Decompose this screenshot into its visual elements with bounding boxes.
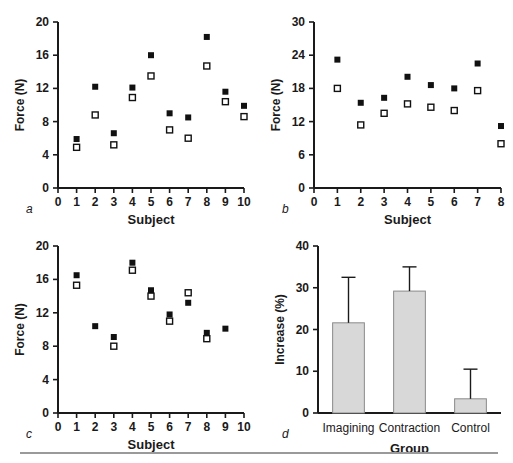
data-point-open-square [204,336,210,342]
y-axis-title: Force (N) [13,303,27,356]
y-axis-title: Force (N) [269,79,283,132]
bar-group: Contraction [379,267,440,435]
category-label: Control [451,421,490,435]
y-tick-label: 8 [42,339,49,353]
panel-b-plot: 0612182430012345678Force (N)Subjectb [256,0,513,232]
data-points-group [74,34,247,150]
data-point-open-square [204,63,210,69]
data-point-open-square [74,282,80,288]
y-tick-label: 0 [42,181,49,195]
x-tick-label: 6 [166,420,173,434]
data-point-open-square [74,144,80,150]
y-tick-label: 10 [296,364,310,378]
x-tick-label: 2 [357,195,364,209]
y-axis-title: Force (N) [13,79,27,132]
data-point-filled-square [74,136,80,142]
data-point-filled-square [111,334,117,340]
x-tick-label: 0 [55,195,62,209]
data-point-open-square [498,141,504,147]
x-tick-label: 1 [73,420,80,434]
panel-c-plot: 048121620012345678910Force (N)Subjectc [0,228,256,453]
x-axis-title: Subject [128,437,176,452]
bar [333,323,365,413]
y-tick-label: 6 [298,148,305,162]
data-point-filled-square [167,311,173,317]
data-point-filled-square [111,130,117,136]
data-point-open-square [129,267,135,273]
y-tick-label: 4 [42,373,49,387]
x-tick-label: 6 [451,195,458,209]
panel-d-plot: 010203040Increase (%)GroupdImaginingCont… [256,228,513,453]
data-point-open-square [129,95,135,101]
data-point-open-square [111,343,117,349]
data-points-group [74,260,229,350]
data-points-group [334,57,504,147]
panel-label: c [26,427,32,441]
data-point-open-square [405,101,411,107]
x-tick-label: 9 [222,195,229,209]
x-tick-label: 10 [237,195,251,209]
data-point-open-square [111,142,117,148]
x-tick-label: 8 [498,195,505,209]
y-tick-label: 12 [36,306,50,320]
x-tick-label: 1 [73,195,80,209]
data-point-open-square [185,290,191,296]
x-tick-label: 3 [381,195,388,209]
y-tick-label: 0 [42,406,49,420]
data-point-filled-square [204,330,210,336]
data-point-open-square [241,114,247,120]
data-point-filled-square [498,123,504,129]
y-tick-label: 40 [296,239,310,253]
x-tick-label: 8 [203,420,210,434]
y-tick-label: 4 [42,148,49,162]
panel-label: d [282,427,289,441]
x-tick-label: 3 [110,195,117,209]
data-point-filled-square [381,95,387,101]
panel-d: 010203040Increase (%)GroupdImaginingCont… [256,228,513,453]
bar-group: Control [451,369,490,435]
y-tick-label: 20 [36,239,50,253]
data-point-filled-square [451,85,457,91]
x-tick-label: 5 [148,420,155,434]
data-point-filled-square [148,287,154,293]
bar [455,399,487,413]
y-tick-label: 8 [42,115,49,129]
data-point-filled-square [222,326,228,332]
category-label: Imagining [322,421,374,435]
axes-group: 048121620012345678910Force (N)Subjecta [13,15,251,227]
data-point-open-square [475,88,481,94]
bar-group: Imagining [322,277,374,435]
y-tick-label: 0 [302,406,309,420]
data-point-filled-square [334,57,340,63]
y-tick-label: 30 [292,15,306,29]
data-point-filled-square [129,85,135,91]
x-tick-label: 7 [185,420,192,434]
figure-bottom-rule [20,452,498,454]
x-tick-label: 8 [203,195,210,209]
panel-a-plot: 048121620012345678910Force (N)Subjecta [0,0,256,232]
panel-label: b [282,202,289,216]
data-point-open-square [167,318,173,324]
data-point-filled-square [74,272,80,278]
data-point-filled-square [204,34,210,40]
figure-container: 048121620012345678910Force (N)Subjecta 0… [0,0,513,463]
data-point-open-square [381,110,387,116]
y-tick-label: 24 [292,48,306,62]
x-tick-label: 5 [148,195,155,209]
y-tick-label: 20 [296,323,310,337]
data-point-filled-square [222,89,228,95]
x-tick-label: 0 [311,195,318,209]
data-point-filled-square [241,103,247,109]
category-label: Contraction [379,421,440,435]
axes-group: 0612182430012345678Force (N)Subjectb [269,15,505,227]
data-point-filled-square [405,74,411,80]
data-point-filled-square [185,300,191,306]
y-tick-label: 0 [298,181,305,195]
x-tick-label: 10 [237,420,251,434]
data-point-open-square [358,122,364,128]
y-tick-label: 16 [36,48,50,62]
y-tick-label: 18 [292,81,306,95]
data-point-open-square [222,99,228,105]
data-point-open-square [92,112,98,118]
data-point-filled-square [129,260,135,266]
